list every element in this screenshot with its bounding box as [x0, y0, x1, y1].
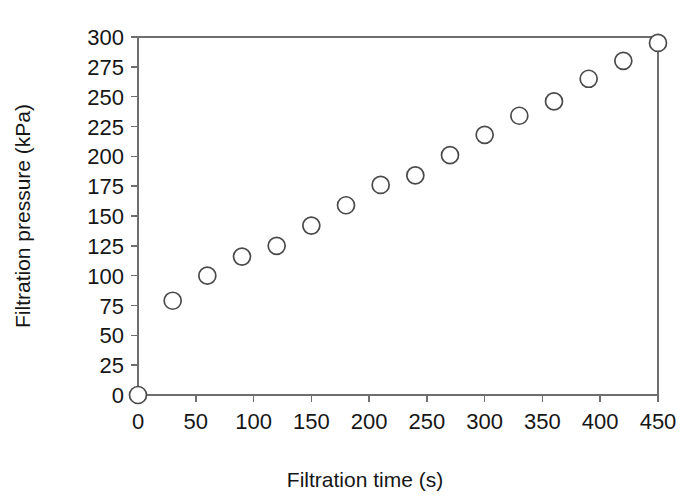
y-tick-label: 175 [87, 174, 124, 199]
y-tick-label: 150 [87, 204, 124, 229]
data-point [511, 107, 528, 124]
x-tick-label: 350 [524, 409, 561, 434]
y-tick-label: 225 [87, 115, 124, 140]
chart-container: 0255075100125150175200225250275300 05010… [0, 0, 690, 498]
data-point [615, 52, 632, 69]
y-tick-label: 275 [87, 55, 124, 80]
data-point [338, 197, 355, 214]
y-axis-title: Filtration pressure (kPa) [11, 104, 34, 328]
y-tick-label: 300 [87, 25, 124, 50]
data-point [199, 267, 216, 284]
data-point [442, 147, 459, 164]
scatter-plot: 0255075100125150175200225250275300 05010… [0, 0, 690, 498]
x-tick-label: 450 [640, 409, 677, 434]
x-tick-label: 0 [132, 409, 144, 434]
data-point [303, 217, 320, 234]
x-axis-title: Filtration time (s) [287, 468, 443, 491]
y-tick-label: 25 [100, 353, 124, 378]
data-point [268, 237, 285, 254]
y-tick-label: 125 [87, 234, 124, 259]
y-tick-label: 100 [87, 264, 124, 289]
y-tick-label: 250 [87, 85, 124, 110]
x-tick-label: 200 [351, 409, 388, 434]
data-point [407, 167, 424, 184]
y-tick-label: 75 [100, 294, 124, 319]
data-point [372, 176, 389, 193]
x-tick-label: 400 [582, 409, 619, 434]
data-point [234, 248, 251, 265]
x-tick-label: 250 [409, 409, 446, 434]
data-point [580, 70, 597, 87]
data-point [130, 387, 147, 404]
x-tick-label: 150 [293, 409, 330, 434]
data-point [476, 126, 493, 143]
y-tick-label: 0 [112, 383, 124, 408]
data-point [546, 93, 563, 110]
x-tick-label: 100 [235, 409, 272, 434]
data-point [164, 292, 181, 309]
x-tick-label: 50 [184, 409, 208, 434]
y-tick-label: 200 [87, 144, 124, 169]
y-tick-label: 50 [100, 323, 124, 348]
x-tick-label: 300 [466, 409, 503, 434]
data-point [650, 34, 667, 51]
